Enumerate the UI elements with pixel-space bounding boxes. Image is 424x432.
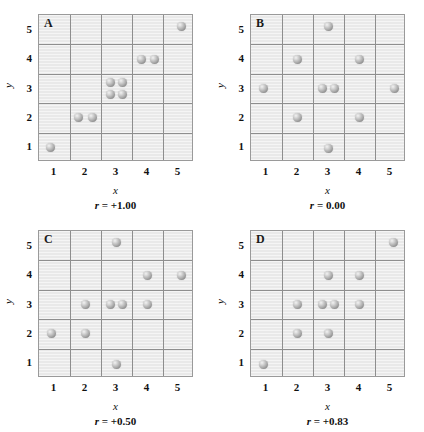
data-point [47, 329, 56, 338]
gridline-vertical [282, 231, 283, 376]
correlation-symbol: r [307, 415, 311, 427]
gridline-vertical [70, 231, 71, 376]
panel-d: Dy1234512345xr = +0.83 [212, 216, 424, 432]
gridline-horizontal [39, 133, 192, 134]
y-axis-label: y [215, 83, 226, 88]
gridline-horizontal [39, 349, 192, 350]
data-point [259, 84, 268, 93]
x-tick-label: 2 [75, 166, 95, 177]
gridline-horizontal [251, 74, 404, 75]
data-point [150, 55, 159, 64]
gridline-horizontal [39, 44, 192, 45]
correlation-caption: r = +0.83 [250, 416, 405, 427]
data-point [293, 55, 302, 64]
gridline-vertical [344, 231, 345, 376]
correlation-value: = +0.83 [314, 415, 349, 427]
gridline-horizontal [39, 103, 192, 104]
gridline-horizontal [251, 319, 404, 320]
panel-label: C [44, 233, 53, 245]
data-point [390, 84, 399, 93]
gridline-horizontal [39, 260, 192, 261]
y-tick-label: 2 [14, 112, 32, 123]
correlation-symbol: r [95, 415, 99, 427]
y-tick-label: 3 [226, 83, 244, 94]
x-tick-label: 1 [44, 382, 64, 393]
correlation-symbol: r [95, 199, 99, 211]
data-point [293, 113, 302, 122]
data-point [318, 300, 327, 309]
correlation-scatterplot-figure: Ay1234512345xr = +1.00By1234512345xr = 0… [0, 0, 424, 432]
plot-background-texture [39, 231, 192, 376]
correlation-value: = 0.00 [317, 199, 345, 211]
x-tick-label: 1 [256, 166, 276, 177]
gridline-vertical [101, 231, 102, 376]
y-tick-label: 3 [14, 83, 32, 94]
x-axis-label: x [250, 185, 405, 196]
gridline-horizontal [251, 44, 404, 45]
y-tick-label: 1 [14, 357, 32, 368]
y-tick-label: 1 [226, 141, 244, 152]
data-point [112, 238, 121, 247]
data-point [112, 360, 121, 369]
y-tick-label: 2 [14, 328, 32, 339]
data-point [118, 90, 127, 99]
data-point [118, 78, 127, 87]
data-point [355, 271, 364, 280]
data-point [330, 84, 339, 93]
data-point [318, 84, 327, 93]
data-point [355, 113, 364, 122]
gridline-horizontal [251, 349, 404, 350]
panel-c: Cy1234512345xr = +0.50 [0, 216, 212, 432]
data-point [177, 22, 186, 31]
data-point [330, 300, 339, 309]
x-tick-label: 2 [287, 166, 307, 177]
gridline-horizontal [251, 260, 404, 261]
x-tick-label: 3 [318, 166, 338, 177]
data-point [81, 329, 90, 338]
y-tick-label: 4 [226, 269, 244, 280]
x-axis-label: x [38, 401, 193, 412]
y-axis-label: y [3, 299, 14, 304]
panel-b: By1234512345xr = 0.00 [212, 0, 424, 216]
gridline-vertical [375, 15, 376, 160]
data-point [177, 271, 186, 280]
x-tick-label: 3 [318, 382, 338, 393]
plot-background-texture [251, 15, 404, 160]
correlation-symbol: r [310, 199, 314, 211]
x-axis-label: x [250, 401, 405, 412]
gridline-vertical [282, 15, 283, 160]
x-tick-label: 3 [106, 166, 126, 177]
data-point [259, 360, 268, 369]
gridline-vertical [375, 231, 376, 376]
data-point [293, 329, 302, 338]
data-point [106, 78, 115, 87]
data-point [324, 271, 333, 280]
plot-area-c [38, 230, 193, 377]
gridline-horizontal [251, 290, 404, 291]
data-point [324, 329, 333, 338]
y-tick-label: 5 [226, 240, 244, 251]
gridline-vertical [313, 15, 314, 160]
x-tick-label: 5 [168, 382, 188, 393]
gridline-vertical [313, 231, 314, 376]
panel-label: B [256, 17, 264, 29]
y-tick-label: 3 [14, 299, 32, 310]
data-point [143, 300, 152, 309]
x-tick-label: 3 [106, 382, 126, 393]
gridline-vertical [70, 15, 71, 160]
x-tick-label: 4 [137, 166, 157, 177]
data-point [324, 144, 333, 153]
data-point [81, 300, 90, 309]
gridline-vertical [101, 15, 102, 160]
gridline-horizontal [39, 290, 192, 291]
panel-label: D [256, 233, 265, 245]
x-tick-label: 1 [44, 166, 64, 177]
x-tick-label: 4 [137, 382, 157, 393]
x-tick-label: 5 [168, 166, 188, 177]
data-point [355, 55, 364, 64]
data-point [74, 113, 83, 122]
correlation-value: = +0.50 [102, 415, 137, 427]
y-tick-label: 4 [14, 53, 32, 64]
y-tick-label: 5 [14, 240, 32, 251]
panel-label: A [44, 17, 53, 29]
